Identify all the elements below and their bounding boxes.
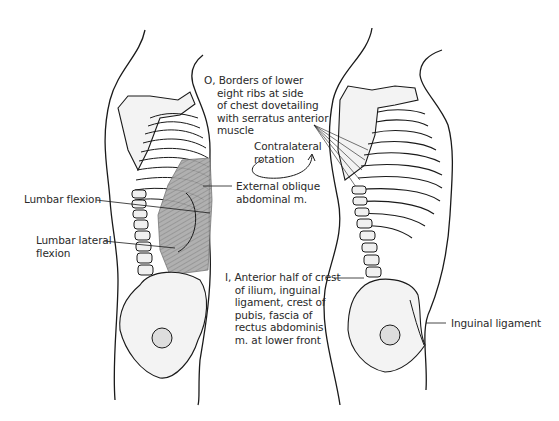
left-acetabulum [152,328,172,348]
label-inguinal-ligament: Inguinal ligament [451,317,541,330]
anatomy-diagram: Lumbar flexion Lumbar lateral flexion Ex… [0,0,559,421]
label-origin: O, Borders of lower eight ribs at side o… [204,74,328,137]
external-oblique-muscle [158,158,212,275]
illustration [0,0,559,421]
label-lumbar-lateral-flexion: Lumbar lateral flexion [36,234,112,259]
right-acetabulum [380,325,400,345]
label-insertion: I, Anterior half of crest of ilium, ingu… [225,271,340,347]
label-lumbar-flexion: Lumbar flexion [24,193,101,206]
left-pelvis [120,272,207,378]
label-contralateral-rotation: Contralateral rotation [254,140,322,165]
left-spine [132,190,153,275]
label-external-oblique: External oblique abdominal m. [236,180,320,205]
right-spine [352,186,381,277]
